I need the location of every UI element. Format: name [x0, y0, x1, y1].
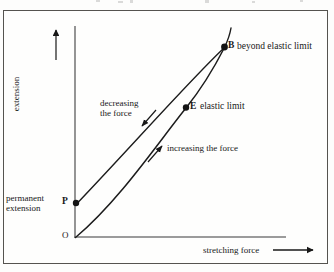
- scanned-figure-page: extension stretching force O P permanent…: [0, 0, 334, 272]
- decreasing-force-line2: the force: [100, 108, 132, 118]
- y-axis-label: extension: [11, 57, 21, 131]
- axis-lines: [74, 26, 286, 238]
- point-label-b: B: [228, 40, 234, 51]
- elastic-limit-label: elastic limit: [200, 101, 245, 112]
- point-label-p: P: [62, 196, 68, 207]
- permanent-extension-label: permanent extension: [6, 193, 44, 214]
- point-marker-e: [183, 104, 189, 110]
- increasing-force-label: increasing the force: [167, 143, 238, 153]
- beyond-elastic-limit-label: beyond elastic limit: [237, 41, 312, 52]
- decreasing-force-label: decreasing the force: [100, 98, 138, 119]
- decreasing-force-line1: decreasing: [100, 98, 138, 108]
- permanent-extension-line1: permanent: [6, 193, 44, 203]
- point-marker-p: [73, 200, 79, 206]
- decreasing-force-arrow-icon: [142, 110, 156, 126]
- permanent-extension-line2: extension: [6, 203, 41, 213]
- x-axis-label: stretching force: [203, 245, 259, 255]
- point-label-e: E: [190, 101, 196, 112]
- origin-label: O: [62, 230, 69, 240]
- point-marker-b: [221, 44, 228, 51]
- unloading-curve: [77, 48, 224, 204]
- loading-curve: [76, 28, 232, 238]
